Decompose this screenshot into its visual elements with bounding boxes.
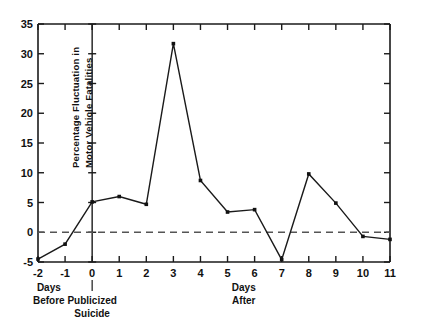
data-point-marker xyxy=(63,242,67,246)
data-point-marker xyxy=(307,172,311,176)
y-tick-label: 15 xyxy=(21,137,33,149)
x-tick-label: -1 xyxy=(60,267,70,279)
y-tick-label: 20 xyxy=(21,107,33,119)
x-tick-label: 6 xyxy=(252,267,258,279)
y-tick-label: 25 xyxy=(21,78,33,90)
x-tick-label: 8 xyxy=(306,267,312,279)
days-after-line1: Days xyxy=(232,282,256,293)
data-point-marker xyxy=(388,238,392,242)
publicized-suicide-line1: Publicized xyxy=(67,295,116,306)
x-tick-label: 3 xyxy=(170,267,176,279)
days-after-line2: After xyxy=(232,295,255,306)
data-point-marker xyxy=(145,202,149,206)
chart-figure: -505101520253035 -2-101234567891011 Perc… xyxy=(0,0,424,323)
y-axis-title-line2: Motor Vehicle Fatalities xyxy=(83,58,94,168)
data-point-marker xyxy=(199,179,203,183)
line-chart: -505101520253035 -2-101234567891011 Perc… xyxy=(0,0,424,323)
y-tick-label: -5 xyxy=(23,256,33,268)
y-tick-label: 5 xyxy=(27,197,33,209)
days-before-line1: Days xyxy=(37,282,61,293)
data-point-marker xyxy=(90,200,94,204)
x-tick-label: 7 xyxy=(279,267,285,279)
x-tick-label: 1 xyxy=(116,267,122,279)
x-tick-label: 10 xyxy=(357,267,369,279)
data-point-marker xyxy=(117,195,121,199)
x-tick-label: 4 xyxy=(197,267,204,279)
x-tick-label: 0 xyxy=(89,267,95,279)
x-tick-label: 11 xyxy=(384,267,396,279)
x-tick-label: 2 xyxy=(143,267,149,279)
data-point-marker xyxy=(334,201,338,205)
data-point-marker xyxy=(280,258,284,262)
data-point-marker xyxy=(36,257,40,261)
y-tick-label: 0 xyxy=(27,226,33,238)
data-point-marker xyxy=(253,208,257,212)
y-tick-label: 35 xyxy=(21,18,33,30)
y-tick-label: 30 xyxy=(21,48,33,60)
data-point-marker xyxy=(361,235,365,239)
x-tick-label: 5 xyxy=(224,267,230,279)
publicized-suicide-line2: Suicide xyxy=(74,308,110,319)
y-axis-title-line1: Percentage Fluctuation in xyxy=(70,47,81,168)
x-tick-label: 9 xyxy=(333,267,339,279)
y-tick-label: 10 xyxy=(21,167,33,179)
days-before-line2: Before xyxy=(33,295,65,306)
data-point-marker xyxy=(226,210,230,214)
data-point-marker xyxy=(172,42,176,46)
x-tick-label: -2 xyxy=(33,267,43,279)
